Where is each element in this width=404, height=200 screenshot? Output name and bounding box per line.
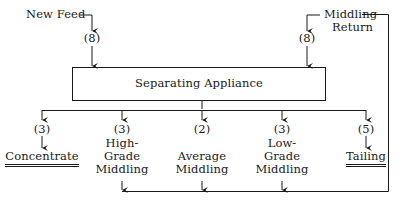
output-count-average: (2) (190, 123, 214, 136)
output-tailing-label: Tailing (346, 149, 386, 167)
output-count-low-grade: (3) (270, 123, 294, 136)
output-tailing: Tailing (331, 150, 401, 163)
output-low-grade-middling: Low- Grade Middling (247, 137, 317, 176)
output-concentrate-label: Concentrate (5, 149, 78, 167)
label-line: Middling (167, 163, 237, 176)
input-middling-return-label-2: Return (332, 21, 373, 34)
flow-diagram: New Feed (8) Middling Return (8) Separat… (0, 0, 404, 200)
output-average-middling: Average Middling (167, 150, 237, 176)
input-new-feed-count: (8) (80, 32, 104, 45)
output-high-grade-middling: High- Grade Middling (87, 137, 157, 176)
input-middling-return-count: (8) (295, 32, 319, 45)
input-new-feed-label: New Feed (26, 8, 86, 21)
output-count-high-grade: (3) (110, 123, 134, 136)
label-line: Middling (247, 163, 317, 176)
process-separating-appliance: Separating Appliance (72, 77, 326, 90)
output-count-concentrate: (3) (30, 123, 54, 136)
output-concentrate: Concentrate (2, 150, 82, 163)
label-line: Middling (87, 163, 157, 176)
output-count-tailing: (5) (354, 123, 378, 136)
